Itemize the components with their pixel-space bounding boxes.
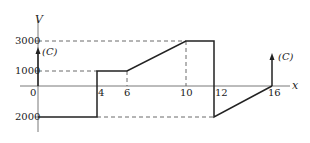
axes: [20, 20, 290, 132]
x-tick-6: 6: [124, 88, 130, 98]
y-tick-2000: 2000: [15, 112, 40, 122]
x-axis-label: x: [292, 80, 298, 91]
x-tick-4: 4: [98, 88, 104, 98]
y-tick-1000: 1000: [15, 66, 40, 76]
x-tick-16: 16: [268, 88, 281, 98]
x-tick-12: 12: [215, 88, 228, 98]
shear-diagram: V x 3000 1000 2000 0 4 6 10 12 16 (C) (C…: [0, 0, 310, 143]
load-label-right: (C): [278, 52, 293, 62]
y-axis-label: V: [35, 14, 43, 25]
chart-canvas: [0, 0, 310, 143]
load-arrow-right: [270, 53, 275, 86]
y-tick-3000: 3000: [15, 36, 40, 46]
load-label-left: (C): [42, 47, 57, 57]
shear-curve: [38, 41, 272, 117]
x-tick-10: 10: [180, 88, 193, 98]
x-tick-0: 0: [30, 88, 36, 98]
guide-lines: [38, 41, 214, 117]
